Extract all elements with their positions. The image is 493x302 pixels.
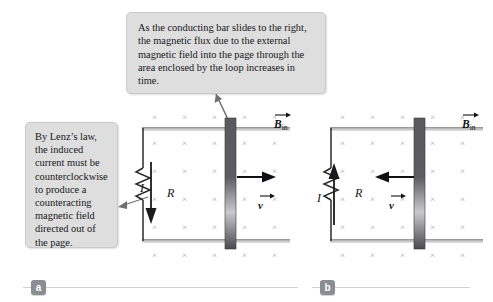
- svg-text:×: ×: [340, 250, 345, 260]
- svg-text:×: ×: [182, 194, 187, 204]
- panel-rule-b: [335, 287, 470, 288]
- svg-text:×: ×: [460, 166, 465, 176]
- field-subscript-a: in: [282, 123, 288, 132]
- svg-text:×: ×: [272, 250, 277, 260]
- svg-text:×: ×: [182, 166, 187, 176]
- current-arrow-a: [142, 160, 160, 228]
- svg-text:×: ×: [242, 222, 247, 232]
- svg-text:×: ×: [430, 222, 435, 232]
- field-symbol-a: B: [274, 118, 282, 130]
- svg-text:×: ×: [460, 250, 465, 260]
- velocity-symbol-b: v: [389, 199, 394, 211]
- svg-text:×: ×: [400, 112, 405, 122]
- svg-text:×: ×: [400, 250, 405, 260]
- svg-text:×: ×: [340, 138, 345, 148]
- field-symbol-b: B: [462, 118, 470, 130]
- velocity-label-b: v: [389, 195, 394, 213]
- svg-text:×: ×: [272, 222, 277, 232]
- svg-text:×: ×: [430, 250, 435, 260]
- svg-text:×: ×: [242, 166, 247, 176]
- svg-text:×: ×: [152, 250, 157, 260]
- badge-stub-b: [312, 287, 320, 288]
- conducting-bar-b: [414, 118, 425, 249]
- svg-text:×: ×: [370, 112, 375, 122]
- svg-text:×: ×: [212, 138, 217, 148]
- velocity-label-a: v: [258, 195, 263, 213]
- svg-text:×: ×: [460, 194, 465, 204]
- conducting-bar-a: [225, 118, 236, 249]
- svg-text:×: ×: [212, 194, 217, 204]
- svg-text:×: ×: [242, 250, 247, 260]
- svg-text:×: ×: [212, 166, 217, 176]
- panel-badge-a: a: [31, 280, 46, 295]
- svg-text:×: ×: [430, 194, 435, 204]
- svg-text:×: ×: [212, 112, 217, 122]
- svg-text:×: ×: [400, 222, 405, 232]
- velocity-vector-arrow-b: [390, 192, 407, 199]
- resistor-label-b: R: [355, 186, 362, 201]
- svg-text:×: ×: [152, 112, 157, 122]
- velocity-vector-arrow-a: [259, 192, 276, 199]
- svg-text:×: ×: [182, 222, 187, 232]
- svg-text:×: ×: [212, 250, 217, 260]
- velocity-symbol-a: v: [258, 199, 263, 211]
- field-label-a: Bin: [274, 114, 288, 132]
- svg-text:×: ×: [340, 112, 345, 122]
- current-label-b: I: [317, 191, 321, 206]
- svg-text:×: ×: [370, 138, 375, 148]
- svg-text:×: ×: [430, 166, 435, 176]
- svg-text:×: ×: [272, 166, 277, 176]
- svg-text:×: ×: [460, 138, 465, 148]
- resistor-label-a: R: [167, 186, 174, 201]
- current-arrow-b: [325, 163, 343, 229]
- badge-stub-a: [23, 287, 31, 288]
- field-vector-arrow-b: [462, 111, 481, 118]
- svg-text:×: ×: [242, 138, 247, 148]
- svg-text:×: ×: [460, 222, 465, 232]
- svg-text:×: ×: [242, 112, 247, 122]
- field-label-b: Bin: [462, 114, 476, 132]
- svg-text:×: ×: [400, 166, 405, 176]
- svg-text:×: ×: [370, 194, 375, 204]
- svg-text:×: ×: [400, 138, 405, 148]
- svg-text:×: ×: [430, 138, 435, 148]
- field-subscript-b: in: [470, 123, 476, 132]
- svg-text:×: ×: [152, 138, 157, 148]
- svg-text:×: ×: [182, 250, 187, 260]
- svg-text:×: ×: [370, 166, 375, 176]
- svg-text:×: ×: [242, 194, 247, 204]
- panel-rule-a: [46, 287, 298, 288]
- velocity-arrow-b: [375, 172, 414, 183]
- panel-badge-b: b: [320, 280, 335, 295]
- svg-text:×: ×: [370, 250, 375, 260]
- svg-text:×: ×: [182, 112, 187, 122]
- svg-text:×: ×: [430, 112, 435, 122]
- callout-lenz-law: By Lenz’s law, the induced current must …: [25, 122, 118, 248]
- svg-text:×: ×: [212, 222, 217, 232]
- svg-text:×: ×: [370, 222, 375, 232]
- field-vector-arrow-a: [274, 111, 293, 118]
- svg-text:×: ×: [272, 138, 277, 148]
- callout-flux-increase: As the conducting bar slides to the righ…: [126, 12, 326, 94]
- figure-canvas: As the conducting bar slides to the righ…: [0, 0, 493, 302]
- svg-text:×: ×: [182, 138, 187, 148]
